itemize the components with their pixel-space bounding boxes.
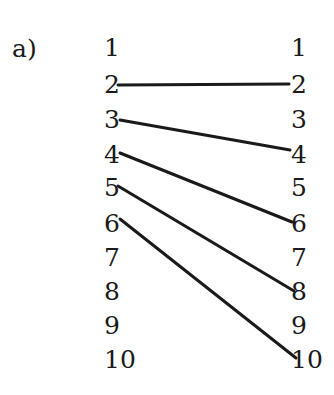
mapping-lines	[0, 0, 334, 395]
mapping-line-3-4	[120, 120, 290, 150]
mapping-line-2-2	[118, 84, 289, 85]
mapping-line-4-6	[120, 153, 292, 222]
